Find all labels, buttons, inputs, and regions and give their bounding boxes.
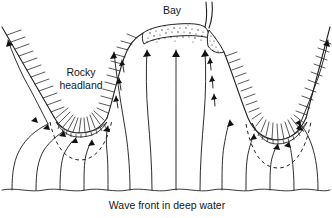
right-headland-hachures (226, 40, 331, 140)
figure-caption: Wave front in deep water (109, 199, 226, 211)
inlet-right-bank (209, 2, 212, 28)
bay-head (142, 2, 224, 53)
bay-inlet-channel (205, 2, 212, 28)
left-headland-inner-cliff (107, 33, 143, 118)
ray-7 (146, 50, 152, 190)
ray-14 (300, 124, 318, 190)
ray-10 (222, 120, 230, 190)
wave-rays (8, 40, 328, 190)
right-headland-coast (224, 27, 331, 140)
inlet-left-bank (205, 2, 207, 27)
headland-label-line2: headland (59, 79, 102, 91)
ray-11 (246, 134, 254, 190)
ray-6 (114, 52, 130, 190)
headland-label-line1: Rocky (66, 66, 96, 78)
bay-beach-band (142, 24, 209, 44)
ray-13 (289, 142, 294, 190)
right-outer-cliff-line (306, 27, 330, 118)
ray-arrow-heads (6, 40, 330, 150)
wave-refraction-figure: Bay Rocky headland Wave front in deep wa… (0, 0, 332, 218)
deep-water-wave-front (2, 189, 330, 191)
ray-3 (60, 138, 76, 190)
diagram-canvas: Bay Rocky headland Wave front in deep wa… (0, 0, 332, 218)
left-outer-cliff (2, 27, 64, 117)
ray-1 (12, 124, 48, 190)
ray-9 (200, 50, 206, 190)
left-outer-cliff-line (2, 27, 54, 117)
ray-12 (270, 144, 278, 190)
right-wave-cut-platform (252, 122, 307, 144)
bay-label: Bay (163, 4, 182, 16)
ray-4 (84, 140, 92, 190)
right-headland-cliff (224, 52, 306, 140)
